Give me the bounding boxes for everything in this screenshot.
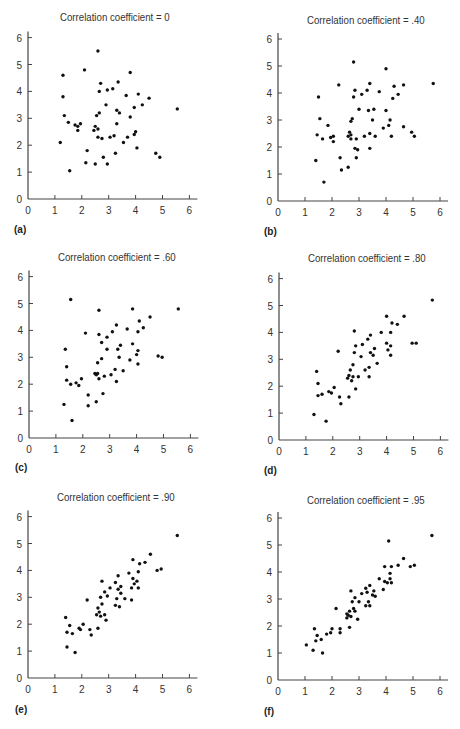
data-point: [96, 372, 99, 375]
data-point: [111, 87, 114, 90]
data-point: [336, 350, 339, 353]
x-tick-label: 2: [79, 684, 85, 695]
data-point: [315, 370, 318, 373]
data-point: [392, 85, 395, 88]
y-tick-label: 4: [16, 565, 22, 576]
data-point: [396, 323, 399, 326]
data-point: [118, 605, 121, 608]
data-point: [353, 351, 356, 354]
data-point: [372, 108, 375, 111]
panel-label: (e): [15, 704, 27, 715]
data-point: [330, 391, 333, 394]
data-point: [352, 95, 355, 98]
data-point: [337, 83, 340, 86]
data-point: [59, 141, 62, 144]
data-point: [95, 613, 98, 616]
data-point: [84, 161, 87, 164]
data-point: [105, 335, 108, 338]
data-point: [137, 92, 140, 95]
data-point: [390, 135, 393, 138]
data-point: [101, 392, 104, 395]
data-point: [121, 369, 124, 372]
data-point: [84, 331, 87, 334]
data-point: [374, 135, 377, 138]
data-point: [114, 604, 117, 607]
data-point: [349, 368, 352, 371]
data-point: [103, 613, 106, 616]
data-point: [76, 129, 79, 132]
x-tick-label: 6: [187, 205, 193, 216]
data-point: [67, 121, 70, 124]
x-tick-label: 6: [188, 444, 194, 455]
x-tick-label: 4: [134, 444, 140, 455]
data-point: [116, 588, 119, 591]
data-point: [350, 379, 353, 382]
data-point: [361, 343, 364, 346]
data-point: [99, 596, 102, 599]
data-point: [413, 135, 416, 138]
data-point: [70, 419, 73, 422]
data-point: [313, 627, 316, 630]
data-point: [326, 124, 329, 127]
data-point: [94, 125, 97, 128]
data-point: [100, 602, 103, 605]
data-point: [96, 135, 99, 138]
data-point: [115, 597, 118, 600]
y-tick-label: 2: [17, 379, 23, 390]
data-point: [363, 368, 366, 371]
data-point: [119, 592, 122, 595]
x-tick-label: 2: [79, 205, 85, 216]
data-point: [149, 553, 152, 556]
data-point: [351, 363, 354, 366]
data-point: [100, 137, 103, 140]
data-point: [96, 49, 99, 52]
data-point: [389, 344, 392, 347]
x-tick-label: 1: [52, 684, 58, 695]
scatter-plot: 01234560123456: [230, 240, 460, 483]
x-tick-label: 0: [26, 444, 32, 455]
data-point: [316, 382, 319, 385]
data-point: [98, 111, 101, 114]
panel-label: (c): [15, 462, 27, 473]
data-point: [135, 146, 138, 149]
data-point: [349, 615, 352, 618]
x-tick-label: 6: [438, 446, 444, 457]
data-point: [176, 107, 179, 110]
data-point: [389, 331, 392, 334]
data-point: [334, 607, 337, 610]
data-point: [389, 354, 392, 357]
scatter-panel-c: Correlation coefficient = .60 0123456012…: [0, 240, 230, 483]
data-point: [367, 366, 370, 369]
data-point: [76, 125, 79, 128]
data-point: [79, 122, 82, 125]
data-point: [384, 109, 387, 112]
y-tick-label: 0: [267, 435, 273, 446]
data-point: [106, 594, 109, 597]
data-point: [375, 362, 378, 365]
x-tick-label: 6: [437, 207, 443, 218]
data-point: [131, 342, 134, 345]
x-tick-label: 5: [410, 207, 416, 218]
data-point: [410, 341, 413, 344]
data-point: [338, 156, 341, 159]
data-point: [385, 341, 388, 344]
data-point: [357, 600, 360, 603]
data-point: [135, 353, 138, 356]
data-point: [103, 590, 106, 593]
data-point: [340, 168, 343, 171]
data-point: [332, 140, 335, 143]
data-point: [314, 159, 317, 162]
data-point: [126, 135, 129, 138]
data-point: [136, 330, 139, 333]
data-point: [357, 375, 360, 378]
data-point: [65, 645, 68, 648]
data-point: [387, 124, 390, 127]
data-point: [134, 130, 137, 133]
data-point: [382, 588, 385, 591]
y-tick-label: 5: [17, 299, 23, 310]
data-point: [371, 354, 374, 357]
data-point: [103, 374, 106, 377]
data-point: [367, 109, 370, 112]
panel-label: (b): [264, 226, 277, 237]
x-tick-label: 3: [356, 686, 362, 697]
